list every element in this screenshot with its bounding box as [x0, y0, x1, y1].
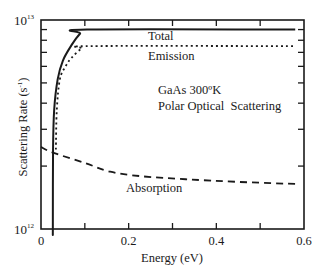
y-tick-label-top: 1013	[14, 13, 35, 28]
label-mechanism: Polar Optical Scattering	[158, 99, 282, 113]
axis-labels: 00.20.40.6	[38, 234, 312, 248]
scattering-rate-chart: 00.20.40.6 1013 1012 Scattering Rate (s-…	[0, 0, 324, 275]
label-material: GaAs 300ºK	[158, 83, 221, 97]
x-tick-label: 0.2	[121, 234, 137, 248]
x-tick-label: 0.4	[209, 234, 225, 248]
y-tick-label-bottom: 1012	[14, 222, 35, 237]
y-axis-label: Scattering Rate (s-1)	[16, 78, 30, 177]
label-total: Total	[148, 29, 174, 43]
x-tick-label: 0.6	[296, 234, 312, 248]
x-axis-label: Energy (eV)	[141, 251, 203, 265]
label-emission: Emission	[148, 49, 195, 63]
label-absorption: Absorption	[126, 181, 183, 195]
x-tick-label: 0	[38, 234, 44, 248]
series-absorption-line	[41, 147, 300, 184]
